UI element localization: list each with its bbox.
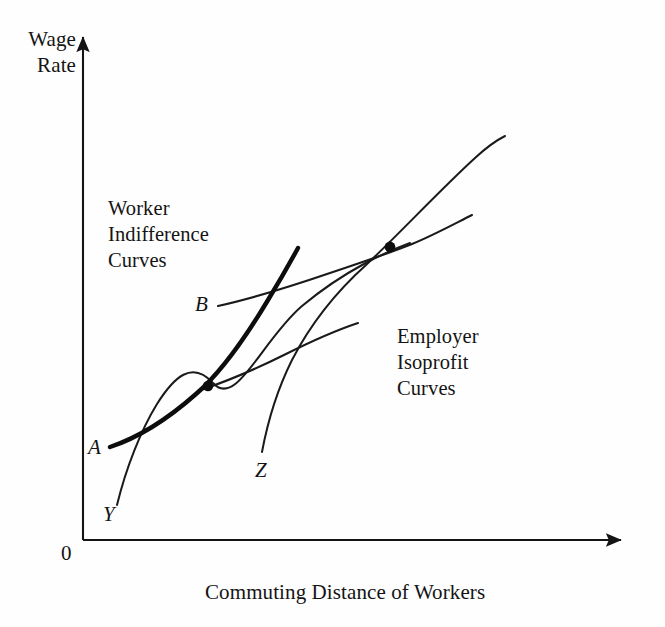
tangency-point-lower — [203, 381, 213, 391]
curve-label-b: B — [195, 291, 208, 317]
curve-B — [218, 215, 472, 306]
origin-label: 0 — [61, 540, 72, 566]
y-axis-title: Wage Rate — [14, 26, 76, 79]
economics-diagram: Wage Rate Commuting Distance of Workers … — [0, 0, 665, 627]
plot-canvas — [0, 0, 665, 627]
curve-label-z: Z — [255, 457, 267, 483]
tangency-point-upper — [385, 242, 396, 253]
curve-label-a: A — [88, 434, 101, 460]
employer-isoprofit-curves-annotation: Employer Isoprofit Curves — [397, 324, 479, 401]
worker-indifference-curves-annotation: Worker Indifference Curves — [108, 196, 209, 273]
curve-Z — [262, 136, 505, 452]
curve-label-y: Y — [103, 501, 115, 527]
x-axis-title: Commuting Distance of Workers — [205, 579, 485, 605]
